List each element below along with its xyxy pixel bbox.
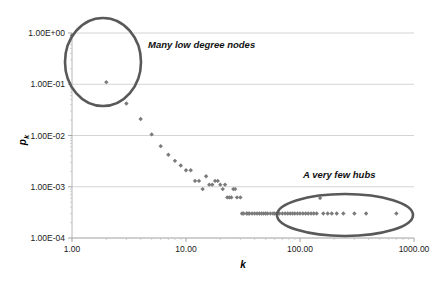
data-point	[210, 182, 214, 186]
data-point	[218, 182, 222, 186]
data-point	[394, 211, 398, 215]
y-axis-title-subscript: k	[23, 134, 30, 139]
data-point	[193, 179, 197, 183]
data-point	[221, 187, 225, 191]
data-point	[223, 182, 227, 186]
data-point	[204, 174, 208, 178]
data-point	[184, 168, 188, 172]
gridlines	[72, 33, 414, 238]
power-law-scatter-chart: 1.00E+001.00E-011.00E-021.00E-031.00E-04…	[0, 0, 448, 284]
y-axis-title: pk	[17, 134, 30, 147]
data-point	[341, 211, 345, 215]
x-axis-major-ticks	[72, 238, 414, 242]
x-tick-label: 100.00	[287, 244, 313, 254]
data-point	[200, 187, 204, 191]
chart-container: 1.00E+001.00E-011.00E-021.00E-031.00E-04…	[0, 0, 448, 284]
data-point	[197, 179, 201, 183]
svg-text:pk: pk	[17, 134, 30, 147]
data-point	[159, 144, 163, 148]
data-point	[124, 101, 128, 105]
data-point	[364, 211, 368, 215]
data-point	[314, 211, 318, 215]
y-axis-tick-labels: 1.00E+001.00E-011.00E-021.00E-031.00E-04	[28, 28, 65, 243]
y-tick-label: 1.00E+00	[28, 28, 65, 38]
annotation-low-degree: Many low degree nodes	[148, 39, 255, 50]
data-point	[104, 80, 108, 84]
data-points	[70, 33, 399, 216]
y-tick-label: 1.00E-03	[31, 182, 66, 192]
y-tick-label: 1.00E-01	[31, 79, 66, 89]
y-axis-title-text: p	[17, 139, 28, 146]
x-tick-label: 10.00	[175, 244, 197, 254]
data-point	[179, 163, 183, 167]
data-point	[216, 179, 220, 183]
x-axis-tick-labels: 1.0010.00100.001000.00	[64, 244, 430, 254]
data-point	[326, 211, 330, 215]
x-tick-label: 1000.00	[399, 244, 430, 254]
data-point	[173, 159, 177, 163]
data-point	[189, 168, 193, 172]
data-point	[321, 211, 325, 215]
data-point	[330, 211, 334, 215]
data-point	[138, 117, 142, 121]
x-tick-label: 1.00	[64, 244, 81, 254]
highlight-ellipse-low-degree	[65, 18, 141, 106]
data-point	[149, 132, 153, 136]
data-point	[238, 195, 242, 199]
data-point	[166, 153, 170, 157]
x-axis-title: k	[240, 259, 246, 270]
annotation-hubs: A very few hubs	[302, 169, 376, 180]
y-tick-label: 1.00E-04	[31, 233, 66, 243]
y-tick-label: 1.00E-02	[31, 131, 66, 141]
highlight-ellipses	[65, 18, 413, 236]
data-point	[335, 211, 339, 215]
data-point	[352, 211, 356, 215]
annotation-labels: Many low degree nodesA very few hubs	[148, 39, 376, 180]
